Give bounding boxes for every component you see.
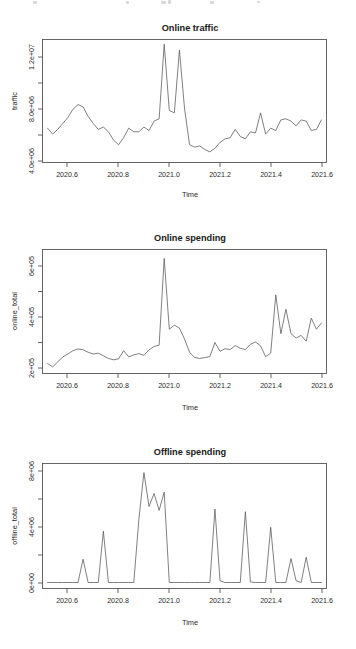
chart-panel-online-spending: Online spending 6e+05 4e+05 2e+05 online… [0, 222, 356, 430]
y-axis-tick-labels: 1.2e+07 8.0e+06 4.0e+06 [28, 44, 36, 174]
x-tick-label: 2021.4 [260, 382, 282, 390]
online-spending-svg: Online spending 6e+05 4e+05 2e+05 online… [0, 222, 356, 430]
chart-panel-offline-spending: Offline spending 8e+06 4e+06 0e+00 offli… [0, 435, 356, 649]
y-tick-label: 4e+06 [28, 517, 36, 537]
y-axis-tick-labels: 6e+05 4e+05 2e+05 [28, 256, 36, 378]
x-axis-title: Time [182, 618, 198, 627]
chart-title: Online spending [154, 233, 226, 243]
y-tick-label: 4e+05 [28, 307, 36, 327]
scan-artifact-band [0, 0, 356, 9]
y-axis-ticks [38, 266, 43, 368]
x-tick-label: 2021.6 [311, 171, 333, 179]
y-tick-label: 1.2e+07 [28, 44, 36, 70]
plot-frame [43, 250, 327, 374]
offline-spending-svg: Offline spending 8e+06 4e+06 0e+00 offli… [0, 435, 356, 649]
x-axis-tick-labels: 2020.6 2020.8 2021.0 2021.2 2021.4 2021.… [56, 597, 333, 605]
x-tick-label: 2020.8 [107, 171, 129, 179]
x-tick-label: 2021.0 [158, 171, 180, 179]
figure-page: Online traffic 1.2e+07 8.0e+06 4.0e+06 t… [0, 0, 356, 649]
y-tick-label: 8e+06 [28, 461, 36, 481]
x-axis-title: Time [182, 190, 198, 199]
x-tick-label: 2020.8 [107, 597, 129, 605]
data-series-line [48, 44, 322, 152]
y-tick-label: 4.0e+06 [28, 148, 36, 174]
y-axis-tick-labels: 8e+06 4e+06 0e+00 [28, 461, 36, 593]
x-tick-label: 2020.8 [107, 382, 129, 390]
x-tick-label: 2021.6 [311, 597, 333, 605]
plot-frame [43, 40, 327, 163]
x-tick-label: 2021.2 [209, 382, 231, 390]
y-tick-label: 2e+05 [28, 358, 36, 378]
x-tick-label: 2021.2 [209, 597, 231, 605]
x-tick-label: 2021.0 [158, 597, 180, 605]
x-axis-ticks [67, 589, 322, 594]
y-axis-title: traffic [10, 92, 19, 110]
x-tick-label: 2021.2 [209, 171, 231, 179]
x-tick-label: 2021.4 [260, 597, 282, 605]
chart-title: Online traffic [162, 23, 219, 33]
x-axis-title: Time [182, 403, 198, 412]
x-axis-ticks [67, 163, 322, 168]
y-tick-label: 8.0e+06 [28, 96, 36, 122]
x-tick-label: 2021.0 [158, 382, 180, 390]
y-axis-ticks [38, 471, 43, 583]
data-series-line [48, 473, 322, 583]
y-axis-title: online_total [10, 292, 19, 330]
x-axis-ticks [67, 374, 322, 379]
x-tick-label: 2020.6 [56, 382, 78, 390]
data-series-line [48, 258, 322, 367]
chart-title: Offline spending [154, 447, 226, 457]
online-traffic-svg: Online traffic 1.2e+07 8.0e+06 4.0e+06 t… [0, 14, 356, 217]
y-axis-ticks [38, 57, 43, 161]
x-tick-label: 2021.4 [260, 171, 282, 179]
y-tick-label: 0e+00 [28, 573, 36, 593]
x-axis-tick-labels: 2020.6 2020.8 2021.0 2021.2 2021.4 2021.… [56, 382, 333, 390]
x-tick-label: 2020.6 [56, 597, 78, 605]
x-axis-tick-labels: 2020.6 2020.8 2021.0 2021.2 2021.4 2021.… [56, 171, 333, 179]
chart-panel-online-traffic: Online traffic 1.2e+07 8.0e+06 4.0e+06 t… [0, 14, 356, 217]
x-tick-label: 2020.6 [56, 171, 78, 179]
x-tick-label: 2021.6 [311, 382, 333, 390]
y-tick-label: 6e+05 [28, 256, 36, 276]
y-axis-title: offline_total [10, 507, 19, 545]
